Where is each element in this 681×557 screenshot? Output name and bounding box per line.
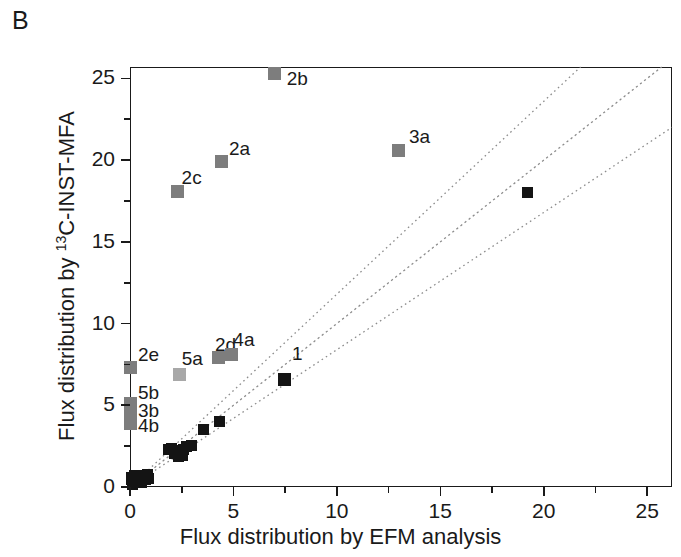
x-tick-0 [129, 487, 131, 496]
data-point [198, 424, 209, 435]
y-tick-20 [121, 159, 130, 161]
y-tick-label-15: 15 [75, 229, 115, 253]
y-tick-label-0: 0 [75, 474, 115, 498]
data-point-1 [278, 373, 291, 386]
data-point-label-4b: 4b [138, 415, 159, 437]
data-point-4b [124, 417, 137, 430]
x-tick-label-15: 15 [420, 499, 460, 523]
x-tick-25 [646, 487, 648, 496]
y-tick-10 [121, 323, 130, 325]
x-tick-label-0: 0 [110, 499, 150, 523]
y-minor-tick [124, 282, 130, 284]
data-point-label-5a: 5a [182, 348, 203, 370]
y-tick-25 [121, 78, 130, 80]
reference-line-identity [130, 67, 662, 487]
data-point-2b [268, 67, 281, 80]
y-axis-title-prefix: Flux distribution by [54, 251, 79, 441]
data-point-2a [215, 155, 228, 168]
x-minor-tick [491, 487, 493, 493]
data-point-label-2a: 2a [229, 138, 250, 160]
x-minor-tick [284, 487, 286, 493]
y-minor-tick [124, 200, 130, 202]
data-point [173, 451, 184, 462]
x-tick-15 [440, 487, 442, 496]
y-minor-tick [124, 445, 130, 447]
data-point-label-1: 1 [292, 343, 303, 365]
y-axis-title-superscript: 13 [53, 236, 69, 252]
data-point-label-2b: 2b [287, 68, 308, 90]
x-tick-label-5: 5 [213, 499, 253, 523]
panel-label: B [12, 6, 29, 35]
x-tick-5 [233, 487, 235, 496]
x-tick-label-20: 20 [524, 499, 564, 523]
y-tick-label-5: 5 [75, 392, 115, 416]
data-point-label-2c: 2c [182, 167, 202, 189]
data-point [522, 187, 533, 198]
plot-area: 2b3a2a2c2d4a2e5b3b4b5a1 [130, 67, 672, 487]
x-tick-10 [336, 487, 338, 496]
y-axis-title: Flux distribution by 13C-INST-MFA [54, 66, 80, 486]
y-minor-tick [124, 118, 130, 120]
y-tick-label-20: 20 [75, 147, 115, 171]
data-point-label-2e: 2e [138, 344, 159, 366]
y-tick-15 [121, 241, 130, 243]
y-tick-5 [121, 404, 130, 406]
data-point-label-4a: 4a [233, 329, 254, 351]
reference-line-lower-band [130, 127, 672, 487]
x-minor-tick [595, 487, 597, 493]
data-point [129, 470, 140, 481]
x-minor-tick [388, 487, 390, 493]
x-minor-tick [181, 487, 183, 493]
y-axis-title-suffix: C-INST-MFA [54, 111, 79, 236]
reference-lines-layer [130, 67, 672, 487]
x-tick-label-25: 25 [627, 499, 667, 523]
figure-panel-b: B 2b3a2a2c2d4a2e5b3b4b5a1 05101520250510… [0, 0, 681, 557]
data-point-3a [392, 144, 405, 157]
data-point [214, 416, 225, 427]
x-tick-label-10: 10 [317, 499, 357, 523]
data-point-label-3a: 3a [409, 126, 430, 148]
x-axis-title: Flux distribution by EFM analysis [0, 524, 681, 550]
y-tick-label-10: 10 [75, 311, 115, 335]
data-point [163, 444, 174, 455]
y-tick-label-25: 25 [75, 65, 115, 89]
x-tick-20 [543, 487, 545, 496]
y-minor-tick [124, 364, 130, 366]
